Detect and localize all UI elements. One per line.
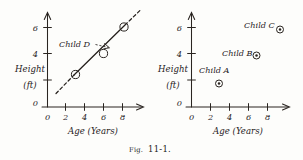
right-chart-x-tick-label-6: 6: [246, 112, 251, 122]
left-chart-x-tick-label-4: 4: [81, 112, 87, 122]
left-chart-x-axis-title: Age (Years): [67, 126, 118, 136]
right-chart-point-child-b: [253, 52, 260, 59]
left-chart-x-tick-label-6: 6: [101, 112, 106, 122]
right-chart-x-tick-label-4: 4: [226, 112, 232, 122]
left-chart: 6 4 0 0 2 4 6 8 Height (ft) Age (Years): [14, 11, 143, 137]
left-chart-trendline-dash-end: [125, 11, 140, 26]
figure-caption-number: 11-1.: [148, 144, 171, 154]
right-chart-y-axis-title-line1: Height: [157, 64, 188, 74]
right-chart-point-child-c: [277, 26, 284, 33]
right-chart-y-tick-label-0: 0: [177, 98, 182, 108]
left-chart-x-tick-label-2: 2: [62, 112, 68, 122]
left-chart-data-point-2: [99, 49, 107, 57]
right-chart-y-tick-label-6: 6: [177, 23, 182, 33]
right-chart-label-child-a: Child A: [199, 65, 230, 75]
left-chart-y-tick-label-6: 6: [33, 23, 38, 33]
left-chart-trendline-dash-start: [56, 74, 76, 94]
left-chart-annotation-label: Child D: [59, 39, 91, 49]
right-chart-label-child-c: Child C: [244, 20, 276, 30]
right-chart-x-tick-label-2: 2: [207, 112, 213, 122]
left-chart-x-tick-label-8: 8: [120, 112, 125, 122]
left-chart-y-tick-label-4: 4: [32, 49, 38, 59]
right-chart-x-tick-label-8: 8: [265, 112, 270, 122]
left-chart-y-axis-title-line1: Height: [14, 64, 45, 74]
right-chart-y-axis-title-line2: (ft): [166, 80, 179, 90]
figure-caption: Fig. 11-1.: [129, 144, 171, 154]
left-chart-data-point-1: [71, 70, 79, 78]
left-chart-trendline-solid: [74, 26, 125, 76]
right-chart-label-child-b: Child B: [222, 48, 253, 58]
figure-illustration: 6 4 0 0 2 4 6 8 Height (ft) Age (Years): [0, 0, 303, 160]
left-chart-data-point-3: [120, 23, 128, 31]
figure-caption-prefix: Fig.: [129, 146, 143, 154]
right-chart-x-tick-label-0: 0: [189, 112, 194, 122]
figure-page: 6 4 0 0 2 4 6 8 Height (ft) Age (Years): [0, 0, 303, 160]
right-chart-point-child-a: [216, 80, 223, 87]
right-chart: 6 4 0 0 2 4 6 8 Height (ft) Age (Years) …: [157, 13, 289, 136]
left-chart-y-axis-title-line2: (ft): [23, 80, 36, 90]
right-chart-x-axis-title: Age (Years): [212, 126, 263, 136]
left-chart-x-tick-label-0: 0: [45, 112, 50, 122]
left-chart-y-tick-label-0: 0: [33, 98, 38, 108]
right-chart-y-tick-label-4: 4: [176, 49, 182, 59]
